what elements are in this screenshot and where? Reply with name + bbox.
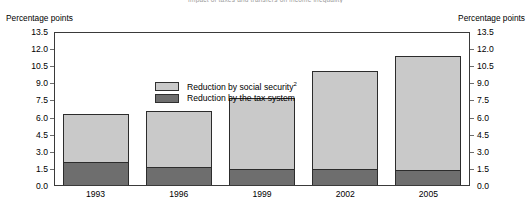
y-axis-tick-label-right: 7.5 xyxy=(477,96,525,105)
y-axis-caption-right: Percentage points xyxy=(458,13,525,23)
legend-swatch-social-security xyxy=(155,82,179,91)
y-axis-tick-label-left: 7.5 xyxy=(0,96,48,105)
y-axis-tick-label-right: 0.0 xyxy=(477,182,525,191)
y-axis-tick-label-left: 9.0 xyxy=(0,79,48,88)
plot-area: Reduction by social security2 Reduction … xyxy=(54,32,470,186)
chart-figure: Impact of taxes and transfers on income … xyxy=(0,0,531,207)
y-axis-tick-label-right: 12.0 xyxy=(477,45,525,54)
bar-segment xyxy=(312,169,378,185)
legend-label-social-security: Reduction by social security2 xyxy=(187,81,297,91)
y-axis-tick-label-right: 3.0 xyxy=(477,147,525,156)
bar-segment xyxy=(229,169,295,185)
bar-segment xyxy=(229,98,295,169)
bar-segment xyxy=(63,114,129,162)
y-axis-caption-left: Percentage points xyxy=(6,13,73,23)
y-axis-tick-label-left: 6.0 xyxy=(0,113,48,122)
y-axis-tick-mark xyxy=(470,83,474,84)
bar-segment xyxy=(63,162,129,185)
y-axis-tick-mark xyxy=(470,152,474,153)
legend-label-tax-system: Reduction by the tax system xyxy=(187,94,295,103)
y-axis-tick-label-right: 10.5 xyxy=(477,62,525,71)
bar-segment xyxy=(395,170,461,185)
y-axis-tick-mark xyxy=(470,118,474,119)
y-axis-tick-label-left: 0.0 xyxy=(0,182,48,191)
y-axis-tick-label-left: 10.5 xyxy=(0,62,48,71)
y-axis-tick-label-right: 6.0 xyxy=(477,113,525,122)
x-axis-label-layer: 19931996199920022005 xyxy=(54,188,470,202)
y-axis-tick-label-left: 13.5 xyxy=(0,28,48,37)
y-axis-tick-label-left: 1.5 xyxy=(0,165,48,174)
legend-swatch-tax-system xyxy=(155,94,179,103)
legend-item: Reduction by the tax system xyxy=(155,93,365,104)
y-axis-tick-mark xyxy=(470,49,474,50)
x-axis-tick-label: 2005 xyxy=(395,188,461,200)
x-axis-tick-label: 1996 xyxy=(146,188,212,200)
y-axis-tick-label-right: 4.5 xyxy=(477,130,525,139)
x-axis-tick-label: 1999 xyxy=(229,188,295,200)
y-axis-tick-label-right: 9.0 xyxy=(477,79,525,88)
x-axis-tick-label: 2002 xyxy=(312,188,378,200)
bar-segment xyxy=(146,111,212,167)
bar-stack xyxy=(146,111,212,185)
y-axis-tick-label-right: 13.5 xyxy=(477,28,525,37)
y-axis-tick-mark xyxy=(470,135,474,136)
y-axis-tick-mark xyxy=(470,66,474,67)
y-axis-tick-mark xyxy=(470,169,474,170)
x-axis-tick-label: 1993 xyxy=(63,188,129,200)
y-axis-tick-label-right: 1.5 xyxy=(477,165,525,174)
y-axis-tick-label-left: 3.0 xyxy=(0,147,48,156)
bar-segment xyxy=(146,167,212,185)
y-axis-tick-mark xyxy=(470,100,474,101)
bar-stack xyxy=(229,98,295,185)
bar-stack xyxy=(395,56,461,185)
legend-footnote-marker: 2 xyxy=(294,81,297,87)
y-axis-tick-label-left: 4.5 xyxy=(0,130,48,139)
legend-item: Reduction by social security2 xyxy=(155,81,365,92)
bar-segment xyxy=(395,56,461,170)
y-axis-tick-label-left: 12.0 xyxy=(0,45,48,54)
bar-stack xyxy=(63,114,129,185)
figure-title-clipped: Impact of taxes and transfers on income … xyxy=(0,0,531,3)
chart-legend: Reduction by social security2 Reduction … xyxy=(155,81,365,105)
